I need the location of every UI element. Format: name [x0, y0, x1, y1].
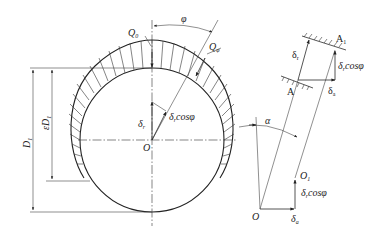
label-A: A: [287, 86, 295, 97]
label-delta-a-bottom: δa: [291, 213, 299, 225]
label-delta-r-cos: δrcosφ: [169, 111, 195, 123]
label-D1: D1: [21, 138, 33, 149]
label-delta-r-cos-top: δrcosφ: [338, 60, 364, 72]
phi-arc: [154, 25, 212, 32]
radial-line-phi: [152, 20, 218, 140]
delta-r-vector-right: [298, 40, 309, 80]
label-O1: O1: [300, 170, 310, 182]
label-epsD1: εD1: [40, 116, 52, 130]
vertical-reference-line: [256, 117, 260, 209]
label-delta-a-top: δa: [328, 85, 336, 97]
label-phi: φ: [181, 13, 187, 24]
label-delta-r-right: δr: [292, 49, 299, 61]
label-Qphi: Qφ: [209, 41, 220, 53]
bearing-diagram: Q0 Qφ φ δr δrcosφ O D1 εD1: [0, 0, 385, 236]
label-O-center: O: [143, 142, 150, 153]
left-view: Q0 Qφ φ δr δrcosφ O D1 εD1: [21, 13, 236, 226]
label-delta-r: δr: [138, 118, 146, 130]
label-A1: A1: [336, 33, 346, 45]
right-view: A1 δr δrcosφ A δa α O1 δrcosφ O δa: [239, 33, 364, 225]
label-O-right: O: [252, 211, 259, 222]
label-Q0: Q0: [128, 27, 138, 39]
label-alpha: α: [265, 115, 271, 126]
delta-r-cos-vector: [152, 112, 166, 140]
label-delta-r-cos-bottom: δrcosφ: [301, 187, 327, 199]
line-O-A: [260, 80, 298, 209]
alpha-arc: [239, 125, 297, 137]
